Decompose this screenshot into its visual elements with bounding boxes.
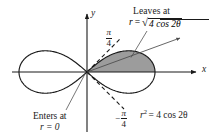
- annotation-enters-at: Enters at r = 0: [33, 112, 67, 133]
- polar-curve-figure: Leaves at r = √ 4 cos 2θ π 4 − π: [0, 0, 214, 139]
- fraction-numerator: π: [121, 109, 128, 118]
- angle-label-negative-pi-over-4: − π 4: [115, 108, 127, 129]
- leaves-at-title: Leaves at: [129, 7, 182, 17]
- curve-equation-label: r2= 4 cos 2θ: [140, 111, 188, 121]
- fraction-denominator: 4: [121, 120, 128, 129]
- leaves-eq-sign: =: [135, 17, 142, 27]
- radicand: 4 cos 2θ: [148, 18, 182, 29]
- fraction-denominator: 4: [106, 39, 113, 48]
- y-axis-label: y: [91, 9, 95, 19]
- curve-eq-rest: = 4 cos 2θ: [147, 110, 188, 120]
- fraction-numerator: π: [106, 28, 113, 37]
- enters-at-equation: r = 0: [33, 123, 67, 133]
- angle-label-pi-over-4: π 4: [105, 25, 112, 48]
- ray-negative-pi-over-4: [87, 72, 124, 109]
- leaves-at-overline-rule: [160, 19, 209, 20]
- fraction-pi-over-4: π 4: [106, 28, 113, 48]
- enters-at-title: Enters at: [33, 112, 67, 122]
- radical-sign-icon: √: [142, 17, 148, 29]
- fraction-neg-pi-over-4: π 4: [121, 109, 128, 129]
- x-axis-label: x: [202, 65, 206, 75]
- leader-line-enters: [66, 74, 85, 110]
